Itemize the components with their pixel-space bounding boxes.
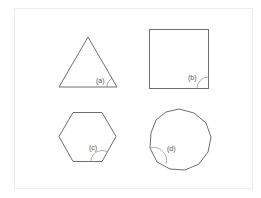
label-c: (c) <box>89 144 97 152</box>
diagram-frame <box>15 9 253 189</box>
shape-a-triangle: (a) <box>59 37 117 87</box>
label-a: (a) <box>96 77 105 85</box>
square-outline <box>150 30 209 89</box>
angle-arc-a <box>107 78 112 87</box>
label-d: (d) <box>167 145 176 153</box>
polygon-interior-angles-diagram: (a) (b) (c) (d) <box>0 0 261 198</box>
label-b: (b) <box>188 74 197 82</box>
hendecagon-outline <box>150 109 211 170</box>
shape-c-hexagon: (c) <box>59 113 116 162</box>
angle-arc-d <box>150 148 166 164</box>
angle-arc-b <box>197 77 209 89</box>
triangle-outline <box>59 37 117 87</box>
hexagon-outline <box>59 113 116 162</box>
shape-d-hendecagon: (d) <box>150 109 211 170</box>
shape-b-square: (b) <box>150 30 209 89</box>
